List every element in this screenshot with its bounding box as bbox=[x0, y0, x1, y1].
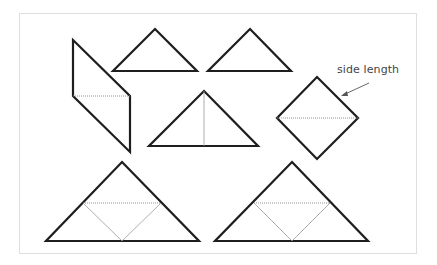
large-triangle-piece-1 bbox=[46, 162, 199, 241]
parallelogram-piece bbox=[73, 40, 130, 152]
medium-triangle-piece bbox=[149, 91, 258, 146]
large-triangle-piece-2 bbox=[215, 162, 368, 241]
small-triangle-piece-1 bbox=[113, 29, 197, 71]
square-piece bbox=[277, 77, 358, 159]
tangram-diagram bbox=[0, 0, 437, 265]
arrow-icon bbox=[341, 83, 369, 96]
small-triangle-piece-2 bbox=[208, 29, 291, 71]
side-length-label: side length bbox=[337, 63, 399, 76]
